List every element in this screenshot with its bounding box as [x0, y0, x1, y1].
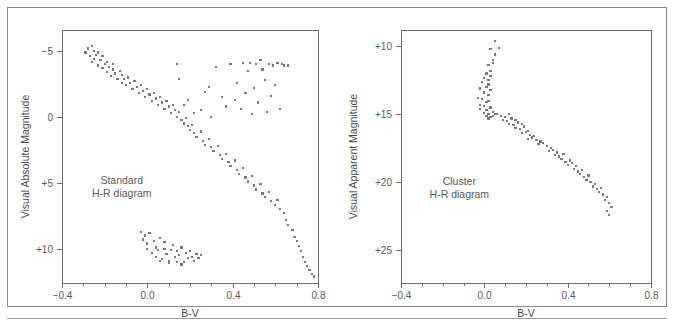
data-point [157, 104, 159, 106]
data-point [168, 260, 170, 262]
data-point [97, 51, 99, 53]
data-point [247, 70, 249, 72]
data-point [529, 134, 531, 136]
data-point [274, 84, 276, 86]
data-point [236, 82, 238, 84]
data-point [298, 245, 300, 247]
data-point [104, 63, 106, 65]
data-point [84, 51, 86, 53]
data-point [481, 98, 483, 100]
data-point [146, 88, 148, 90]
data-point [159, 237, 161, 239]
data-point [244, 176, 246, 178]
data-point [159, 96, 161, 98]
data-point [608, 202, 610, 204]
data-point [129, 82, 131, 84]
data-point [110, 75, 112, 77]
y-tick-label: 0 [47, 112, 53, 123]
data-point [183, 122, 185, 124]
data-point [562, 153, 564, 155]
data-point [287, 224, 289, 226]
plot-annotation-line2: H-R diagram [430, 188, 490, 200]
standard-hr-plot: −50+5+10−0.40.00.40.8B-VVisual Absolute … [0, 0, 340, 329]
data-point [506, 120, 508, 122]
data-point [180, 263, 182, 265]
data-point [116, 78, 118, 80]
data-point [291, 229, 293, 231]
data-point [494, 113, 496, 115]
data-point [253, 184, 255, 186]
data-point [249, 62, 251, 64]
data-point [180, 246, 182, 248]
x-tick-label: 0.4 [562, 290, 576, 301]
data-point [270, 200, 272, 202]
data-point [193, 132, 195, 134]
data-point [483, 77, 485, 79]
data-point [487, 113, 489, 115]
data-point [151, 252, 153, 254]
data-point [489, 75, 491, 77]
data-point [583, 176, 585, 178]
data-point [99, 59, 101, 61]
data-point [281, 63, 283, 65]
data-point [504, 116, 506, 118]
data-point [153, 92, 155, 94]
data-points-group [84, 45, 314, 278]
data-point [306, 265, 308, 267]
data-point [481, 81, 483, 83]
data-point [598, 191, 600, 193]
data-point [521, 132, 523, 134]
data-point [195, 136, 197, 138]
x-tick-label: 0.8 [645, 290, 659, 301]
data-point [210, 146, 212, 148]
data-point [255, 188, 257, 190]
data-point [261, 68, 263, 70]
y-tick-label: +20 [375, 177, 392, 188]
data-point [535, 139, 537, 141]
data-point [193, 112, 195, 114]
data-point [112, 68, 114, 70]
data-point [600, 187, 602, 189]
data-point [202, 140, 204, 142]
data-point [191, 124, 193, 126]
data-point [140, 231, 142, 233]
data-point [594, 183, 596, 185]
data-point [219, 154, 221, 156]
data-point [148, 93, 150, 95]
data-point [300, 250, 302, 252]
data-point [602, 193, 604, 195]
data-point [606, 196, 608, 198]
y-axis-title: Visual Absolute Magnitude [19, 95, 31, 219]
data-point [178, 111, 180, 113]
data-point [210, 116, 212, 118]
x-tick-label: −0.4 [392, 290, 412, 301]
data-point [596, 188, 598, 190]
data-point [483, 105, 485, 107]
data-point [89, 55, 91, 57]
data-point [296, 240, 298, 242]
data-point [268, 63, 270, 65]
data-point [112, 63, 114, 65]
data-point [268, 191, 270, 193]
data-point [285, 219, 287, 221]
data-point [514, 127, 516, 129]
data-point [193, 260, 195, 262]
data-point [521, 123, 523, 125]
data-point [163, 248, 165, 250]
data-point [276, 199, 278, 201]
data-point [168, 105, 170, 107]
data-point [151, 100, 153, 102]
data-point [585, 179, 587, 181]
data-point [189, 129, 191, 131]
data-point [236, 169, 238, 171]
data-point [556, 151, 558, 153]
y-tick-label: +5 [42, 178, 54, 189]
data-point [161, 258, 163, 260]
data-point [508, 123, 510, 125]
data-point [489, 106, 491, 108]
data-point [106, 71, 108, 73]
data-point [313, 275, 315, 277]
data-point [304, 261, 306, 263]
data-point [212, 150, 214, 152]
data-point [144, 96, 146, 98]
